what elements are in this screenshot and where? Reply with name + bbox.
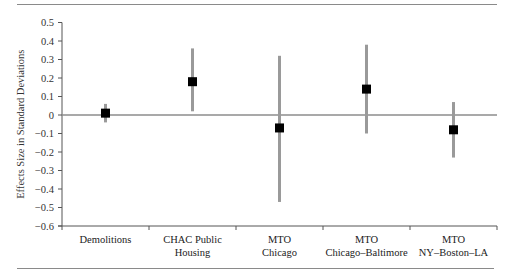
effect-size-chart: Effects Size in Standard Deviations 0.50… [0, 0, 510, 275]
x-axis [58, 226, 497, 230]
y-axis-title-text: Effects Size in Standard Deviations [15, 50, 26, 199]
data-point-2 [275, 56, 284, 202]
y-tick-label: 0.4 [41, 36, 55, 47]
category-label: CHAC PublicHousing [163, 234, 222, 258]
y-tick-label: −0.4 [35, 184, 55, 195]
y-tick-label: −0.2 [35, 147, 54, 158]
y-tick-label: −0.5 [35, 202, 54, 213]
y-tick-label: −0.3 [35, 165, 54, 176]
point-marker [101, 109, 110, 118]
data-point-3 [362, 45, 371, 134]
point-marker [188, 77, 197, 86]
y-tick-label: 0.5 [41, 17, 54, 28]
data-point-0 [101, 104, 110, 123]
y-axis: 0.50.40.30.20.10−0.1−0.2−0.3−0.4−0.5−0.6 [35, 17, 62, 232]
data-point-4 [449, 102, 458, 158]
y-tick-label: −0.1 [35, 128, 54, 139]
point-marker [449, 125, 458, 134]
point-marker [362, 85, 371, 94]
category-label: MTOChicago–Baltimore [325, 234, 408, 258]
y-tick-label: 0.1 [41, 91, 54, 102]
y-tick-label: 0.3 [41, 54, 54, 65]
category-labels: DemolitionsCHAC PublicHousingMTOChicagoM… [80, 234, 489, 258]
point-marker [275, 123, 284, 132]
y-tick-label: 0 [49, 110, 54, 121]
data-points [101, 45, 458, 202]
category-label: MTONY–Boston–LA [419, 234, 489, 258]
y-tick-label: 0.2 [41, 73, 54, 84]
y-axis-title: Effects Size in Standard Deviations [15, 50, 26, 199]
data-point-1 [188, 48, 197, 111]
y-tick-label: −0.6 [35, 221, 54, 232]
category-label: MTOChicago [262, 234, 297, 258]
category-label: Demolitions [80, 234, 132, 245]
